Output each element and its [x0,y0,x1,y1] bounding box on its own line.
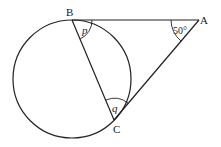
diagram-svg: B A C 50° p q [0,0,221,147]
line-bc [72,20,114,120]
label-a: A [200,14,208,26]
label-c: C [113,123,120,135]
label-b: B [66,6,73,18]
angle-label-b: p [81,24,88,36]
geometry-diagram: B A C 50° p q [0,0,221,147]
angle-label-c: q [112,102,118,114]
circle [13,20,131,138]
angle-label-a: 50° [173,25,187,36]
